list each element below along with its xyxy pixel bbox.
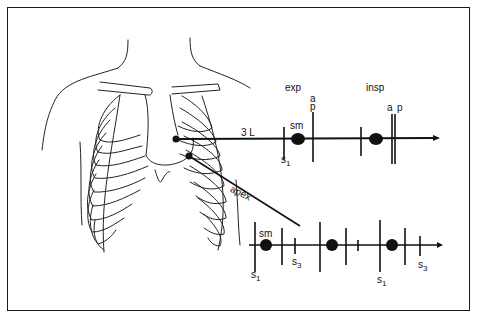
left-ribs <box>87 95 148 252</box>
bottom-trace-arrow <box>437 242 443 248</box>
chest-diagram <box>0 0 478 319</box>
label-insp: insp <box>366 83 384 93</box>
top-trace-arrow <box>433 135 440 141</box>
right-clavicle <box>172 84 220 94</box>
label-p-insp: p <box>397 103 403 113</box>
label-s1-top: s1 <box>281 155 290 165</box>
label-s1-bottom-2: s1 <box>377 275 386 285</box>
systolic-murmur-blob-exp <box>291 133 305 145</box>
sternum-edge <box>170 95 178 135</box>
label-a-insp: a <box>387 103 393 113</box>
label-s3-bottom-2: s3 <box>418 260 427 270</box>
label-sm-top: sm <box>290 121 303 131</box>
systolic-murmur-blob-insp <box>369 133 383 145</box>
label-sm-bottom: sm <box>259 229 272 239</box>
murmur-blob-2 <box>326 239 338 251</box>
xiphoid <box>155 170 170 182</box>
top-trace-baseline <box>176 138 436 139</box>
label-p-exp: p <box>310 102 316 112</box>
label-exp: exp <box>285 83 301 93</box>
murmur-blob-1 <box>260 239 272 251</box>
left-arm-outline <box>80 142 82 225</box>
left-clavicle <box>98 82 152 95</box>
label-3l: 3 L <box>241 128 255 138</box>
label-s1-bottom-1: s1 <box>251 270 260 280</box>
right-ribs <box>178 96 226 250</box>
murmur-blob-3 <box>386 239 398 251</box>
neck-left-outline <box>118 40 128 68</box>
label-s3-bottom-1: s3 <box>292 257 301 267</box>
neck-right-outline <box>190 38 200 66</box>
